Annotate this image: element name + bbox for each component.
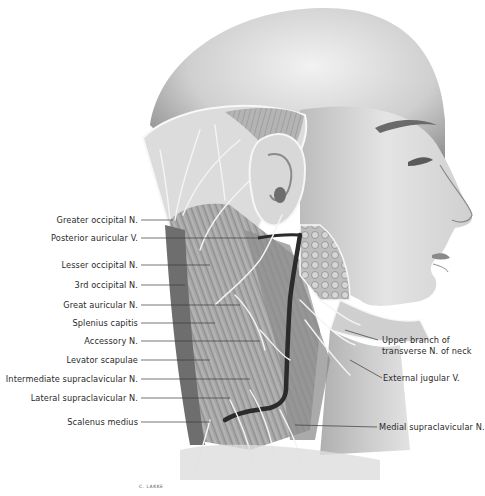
artist-credit: C. LAKKE xyxy=(139,484,163,489)
ear xyxy=(250,134,305,225)
label-lesser-occipital-n: Lesser occipital N. xyxy=(62,260,138,270)
label-great-auricular-n: Great auricular N. xyxy=(63,300,138,310)
label-medial-supraclavicular-n: Medial supraclavicular N. xyxy=(379,422,485,432)
label-upper-branch-line1: Upper branch of xyxy=(382,335,450,345)
label-levator-scapulae: Levator scapulae xyxy=(66,355,138,365)
label-lateral-supraclavicular-n: Lateral supraclavicular N. xyxy=(31,393,138,403)
label-greater-occipital-n: Greater occipital N. xyxy=(57,215,138,225)
label-external-jugular-v: External jugular V. xyxy=(383,373,460,383)
label-scalenus-medius: Scalenus medius xyxy=(67,417,138,427)
label-upper-branch-line2: transverse N. of neck xyxy=(382,346,472,356)
label-splenius-capitis: Splenius capitis xyxy=(72,318,138,328)
lips xyxy=(432,253,450,259)
label-accessory-n: Accessory N. xyxy=(84,336,138,346)
label-posterior-auricular-v: Posterior auricular V. xyxy=(51,233,138,243)
label-3rd-occipital-n: 3rd occipital N. xyxy=(75,280,138,290)
label-intermediate-supraclavicular-n: Intermediate supraclavicular N. xyxy=(6,374,138,384)
